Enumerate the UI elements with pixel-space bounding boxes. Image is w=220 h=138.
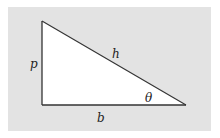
label-h: h <box>112 47 120 61</box>
label-p: p <box>30 57 38 71</box>
label-b: b <box>97 111 105 125</box>
triangle-diagram: p h b θ <box>0 0 220 138</box>
label-theta: θ <box>145 91 153 105</box>
